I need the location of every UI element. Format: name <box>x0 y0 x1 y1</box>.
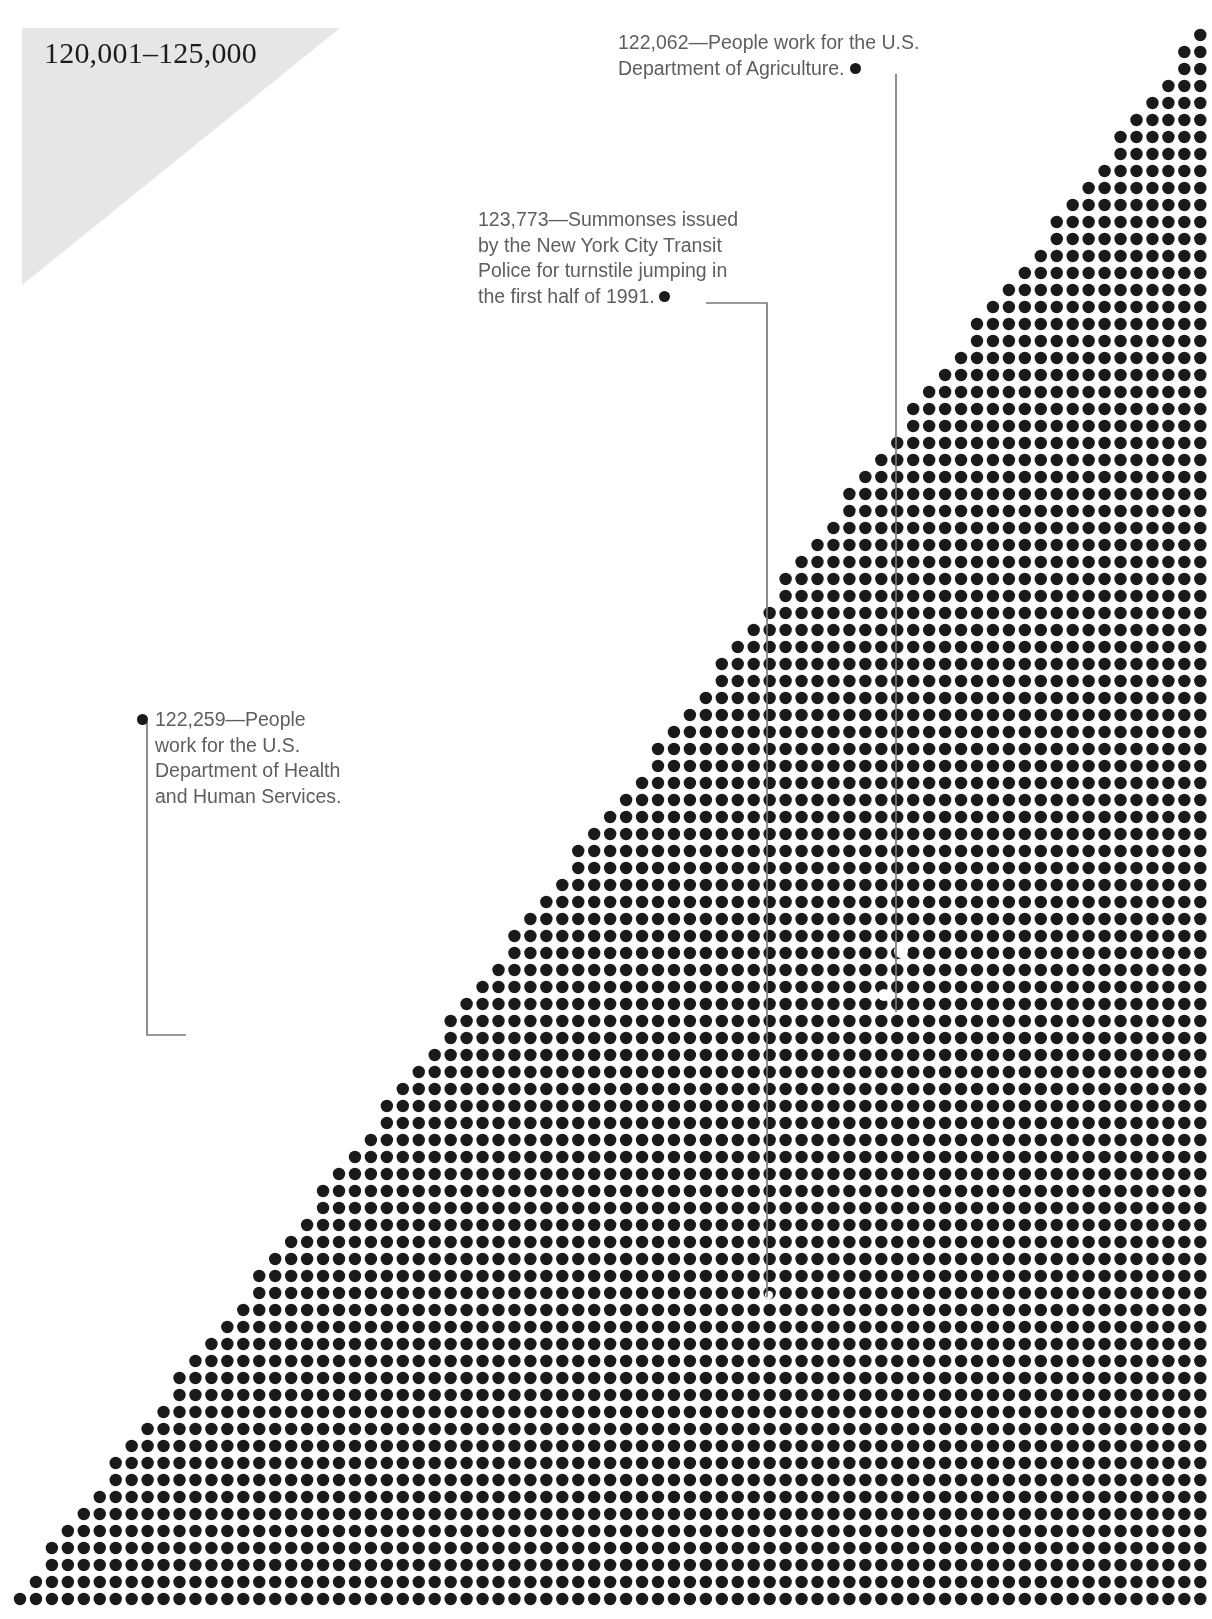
annotation-agriculture: 122,062—People work for the U.S. Departm… <box>618 30 998 81</box>
annotation-agriculture-line1: 122,062—People work for the U.S. <box>618 31 919 53</box>
dot-matrix-page: 120,001–125,000 122,062—People work for … <box>0 0 1212 1619</box>
annotation-agriculture-line2: Department of Agriculture. <box>618 57 845 79</box>
annotation-bullet-icon <box>659 291 670 302</box>
annotation-health-line4: and Human Services. <box>155 785 341 807</box>
annotation-summonses-line2: by the New York City Transit <box>478 234 722 256</box>
annotation-bullet-icon <box>137 714 148 725</box>
annotation-summonses-line3: Police for turnstile jumping in <box>478 259 727 281</box>
annotation-health: 122,259—People work for the U.S. Departm… <box>137 707 387 809</box>
annotation-health-line1: 122,259—People <box>155 708 306 730</box>
annotation-summonses: 123,773—Summonses issued by the New York… <box>478 207 798 309</box>
annotation-summonses-line1: 123,773—Summonses issued <box>478 208 738 230</box>
annotation-summonses-line4: the first half of 1991. <box>478 285 655 307</box>
annotation-health-line3: Department of Health <box>155 759 340 781</box>
annotation-health-line2: work for the U.S. <box>155 734 300 756</box>
annotation-bullet-icon <box>850 63 861 74</box>
